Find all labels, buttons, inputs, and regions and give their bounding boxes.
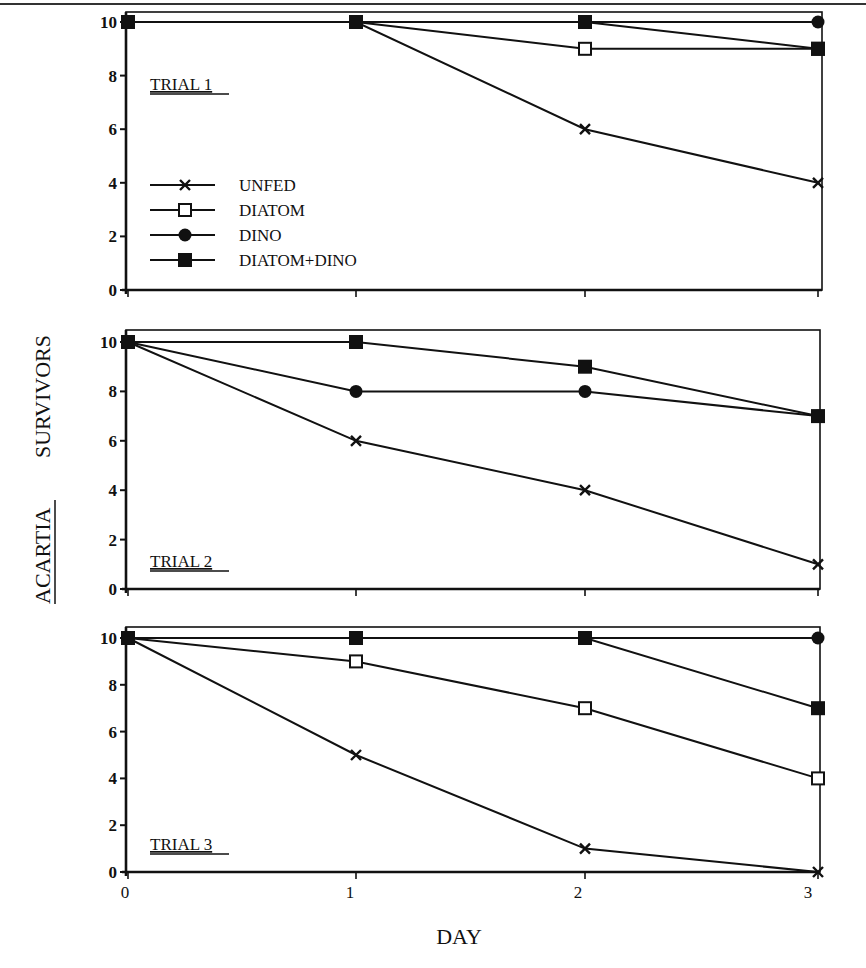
filled-square-marker-icon xyxy=(811,42,825,56)
open-square-marker-icon xyxy=(579,43,591,55)
trial-label: TRIAL 1 xyxy=(150,75,212,94)
x-marker-icon xyxy=(813,559,823,569)
filled-square-marker-icon xyxy=(349,15,363,29)
y-tick-label: 10 xyxy=(100,13,117,32)
series-line-dino xyxy=(128,342,818,416)
legend-label: UNFED xyxy=(239,176,296,195)
y-tick-label: 6 xyxy=(109,432,118,451)
filled-square-marker-icon xyxy=(578,360,592,374)
y-tick-label: 8 xyxy=(109,67,118,86)
open-square-marker-icon xyxy=(350,655,362,667)
y-tick-label: 8 xyxy=(109,676,118,695)
plot-frame xyxy=(126,330,820,589)
filled-circle-marker-icon xyxy=(179,229,192,242)
plot-frame xyxy=(126,12,822,290)
y-axis-title: ACARTIASURVIVORS xyxy=(30,335,55,604)
filled-square-marker-icon xyxy=(578,15,592,29)
y-tick-label: 10 xyxy=(100,629,117,648)
filled-square-marker-icon xyxy=(121,15,135,29)
x-tick-label: 2 xyxy=(574,883,583,902)
survival-chart: 0246810TRIAL 10246810TRIAL 20246810TRIAL… xyxy=(0,0,866,968)
filled-square-marker-icon xyxy=(578,631,592,645)
legend-label: DIATOM+DINO xyxy=(239,251,357,270)
y-tick-label: 0 xyxy=(109,863,118,882)
legend: UNFEDDIATOMDINODIATOM+DINO xyxy=(150,176,357,270)
panel-trial-1: 0246810TRIAL 1 xyxy=(100,12,825,300)
y-axis-title-species: ACARTIA xyxy=(30,507,55,604)
y-tick-label: 2 xyxy=(109,816,118,835)
panel-trial-3: 0246810TRIAL 3 xyxy=(100,627,825,882)
filled-square-marker-icon xyxy=(121,335,135,349)
filled-square-marker-icon xyxy=(349,335,363,349)
x-tick-label: 3 xyxy=(804,883,813,902)
filled-square-marker-icon xyxy=(811,409,825,423)
panel-trial-2: 0246810TRIAL 2 xyxy=(100,330,825,599)
filled-square-marker-icon xyxy=(811,701,825,715)
filled-circle-marker-icon xyxy=(812,632,825,645)
y-tick-label: 8 xyxy=(109,382,118,401)
y-tick-label: 0 xyxy=(109,580,118,599)
open-square-marker-icon xyxy=(812,772,824,784)
y-tick-label: 4 xyxy=(109,481,118,500)
x-marker-icon xyxy=(351,750,361,760)
legend-label: DIATOM xyxy=(239,201,305,220)
y-tick-label: 2 xyxy=(109,227,118,246)
series-line-diatom xyxy=(128,22,818,49)
y-tick-label: 0 xyxy=(109,281,118,300)
y-tick-label: 2 xyxy=(109,531,118,550)
series-line-unfed xyxy=(128,22,818,183)
y-tick-label: 6 xyxy=(109,723,118,742)
x-axis-title: DAY xyxy=(436,924,482,949)
y-tick-label: 6 xyxy=(109,120,118,139)
y-tick-label: 4 xyxy=(109,769,118,788)
open-square-marker-icon xyxy=(579,702,591,714)
filled-square-marker-icon xyxy=(121,631,135,645)
open-square-marker-icon xyxy=(179,204,191,216)
y-axis-title-rest: SURVIVORS xyxy=(30,335,55,458)
trial-label: TRIAL 3 xyxy=(150,835,212,854)
series-line-diatom xyxy=(128,638,818,778)
trial-label: TRIAL 2 xyxy=(150,552,212,571)
series-line-unfed xyxy=(128,342,818,564)
y-tick-label: 10 xyxy=(100,333,117,352)
filled-circle-marker-icon xyxy=(579,385,592,398)
plot-frame xyxy=(126,627,820,872)
filled-square-marker-icon xyxy=(349,631,363,645)
filled-circle-marker-icon xyxy=(812,16,825,29)
filled-square-marker-icon xyxy=(178,253,192,267)
x-tick-label: 0 xyxy=(121,883,130,902)
y-tick-label: 4 xyxy=(109,174,118,193)
x-tick-label: 1 xyxy=(346,883,355,902)
series-line-unfed xyxy=(128,638,818,872)
legend-label: DINO xyxy=(239,226,282,245)
filled-circle-marker-icon xyxy=(350,385,363,398)
